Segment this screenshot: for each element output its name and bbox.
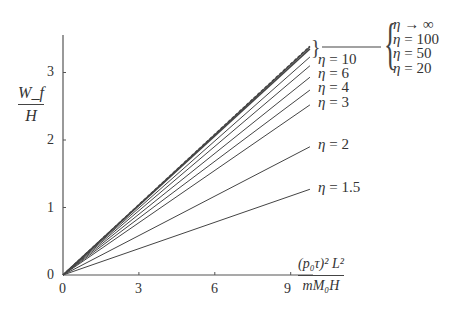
y-label-fraction-bar — [18, 104, 44, 105]
y-tick-0: 0 — [47, 268, 54, 282]
y-label-numerator: W_f — [18, 84, 44, 102]
x-label-numerator: (p₀τ)² L² — [298, 256, 344, 272]
x-tick-6: 6 — [211, 282, 218, 296]
x-tick-9: 9 — [284, 282, 291, 296]
y-tick-3: 3 — [47, 65, 54, 79]
legend-item-eta-50: η = 50 — [393, 46, 439, 61]
series-line-eta-6 — [63, 77, 310, 275]
x-label-denominator: mM₀H — [298, 278, 344, 294]
label-eta-3: η = 3 — [318, 95, 349, 110]
y-tick-1: 1 — [47, 201, 54, 215]
x-tick-3: 3 — [135, 282, 142, 296]
series-line-eta-3 — [63, 105, 310, 275]
x-axis-label: (p₀τ)² L² mM₀H — [298, 256, 344, 294]
legend-item-eta-20: η = 20 — [393, 61, 439, 76]
y-label-denominator: H — [18, 107, 44, 125]
label-eta-4: η = 4 — [318, 80, 349, 95]
label-eta-1-5: η = 1.5 — [318, 180, 360, 195]
series-line-eta-4 — [63, 90, 310, 275]
series-line-eta-50 — [63, 49, 310, 275]
label-eta-2: η = 2 — [318, 137, 349, 152]
series-lines — [63, 46, 310, 275]
legend-item-eta-inf: η → ∞ — [393, 17, 439, 32]
series-line-eta-1-5 — [63, 189, 310, 275]
x-label-fraction-bar — [298, 275, 344, 276]
x-tick-0: 0 — [59, 282, 66, 296]
legend-item-eta-100: η = 100 — [393, 32, 439, 47]
y-tick-2: 2 — [47, 133, 54, 147]
series-line-eta-10 — [63, 66, 310, 275]
y-axis-label: W_f H — [18, 84, 44, 125]
